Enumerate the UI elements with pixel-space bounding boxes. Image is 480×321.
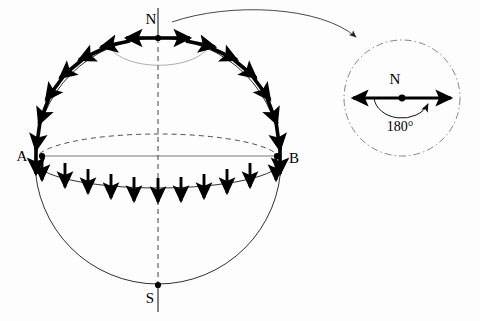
figure-root: N S A B N 180° — [0, 0, 480, 321]
tangent-vector-left-4 — [60, 60, 82, 78]
callout-arrow — [172, 10, 356, 37]
point-a-label: A — [17, 148, 28, 164]
tangent-vector-right-4 — [234, 60, 256, 78]
tangent-vector-left-5 — [46, 77, 63, 100]
tangent-vector-right-5 — [253, 77, 270, 100]
point-a-dot — [39, 153, 45, 159]
south-pole-dot — [155, 282, 161, 288]
inset-center-dot — [399, 95, 406, 102]
tangent-vector-right-6 — [267, 98, 277, 124]
north-pole-angle-arc — [110, 48, 208, 65]
point-b-dot — [274, 153, 280, 159]
tangent-vector-right-3 — [211, 48, 237, 60]
sphere-vector-field-diagram: N S A B N 180° — [0, 0, 480, 321]
tangent-vector-left-3 — [79, 48, 105, 60]
inset-center-label: N — [390, 71, 401, 87]
tangent-vector-left-2 — [101, 41, 130, 47]
tangent-vector-left-6 — [39, 98, 49, 124]
south-pole-label: S — [146, 290, 154, 306]
tangent-vector-right-2 — [186, 41, 215, 47]
inset-north-pole-top-view: N 180° — [344, 40, 460, 156]
north-pole-dot — [155, 35, 161, 41]
inset-angle-label: 180° — [387, 119, 414, 134]
north-pole-label: N — [146, 11, 157, 27]
point-b-label: B — [289, 150, 299, 166]
equator-downward-vectors — [42, 156, 276, 202]
